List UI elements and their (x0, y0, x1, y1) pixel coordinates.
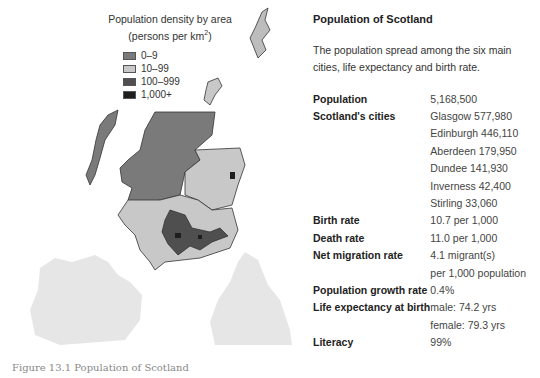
table-row: Net migration rate4.1 migrant(s) (313, 247, 526, 264)
table-row: Population growth rate0.4% (313, 281, 526, 298)
figure-caption: Figure 13.1 Population of Scotland (12, 362, 189, 373)
legend-swatch (123, 78, 136, 86)
table-row: Death rate11.0 per 1,000 (313, 229, 526, 246)
orkney-islands (204, 78, 222, 105)
legend-label: 100–999 (141, 76, 180, 87)
map-title-line1: Population density by area (100, 12, 240, 26)
region-glasgow-city (175, 233, 181, 238)
region-western-isles (86, 110, 118, 185)
table-row: female: 79.3 yrs (313, 316, 526, 333)
ireland-landmass (30, 255, 142, 345)
legend-label: 0–9 (141, 50, 158, 61)
legend-item-1000-plus: 1,000+ (123, 88, 180, 101)
table-row: Aberdeen 179,950 (313, 142, 526, 159)
shetland-islands (250, 8, 270, 58)
table-row: Life expectancy at birthmale: 74.2 yrs (313, 299, 526, 316)
map-legend: 0–9 10–99 100–999 1,000+ (123, 49, 180, 101)
panel-description: The population spread among the six main… (313, 42, 538, 76)
england-landmass (210, 252, 292, 345)
table-row: Population5,168,500 (313, 90, 526, 107)
legend-item-100-999: 100–999 (123, 75, 180, 88)
table-row: Literacy99% (313, 333, 526, 350)
table-row: Birth rate10.7 per 1,000 (313, 212, 526, 229)
map-title: Population density by area (persons per … (100, 12, 240, 43)
stats-table: Population5,168,500 Scotland's citiesGla… (313, 90, 526, 351)
legend-swatch (123, 65, 136, 73)
region-aberdeen-city (230, 172, 235, 179)
map-title-line2: (persons per km2) (100, 26, 240, 43)
table-row: per 1,000 population (313, 264, 526, 281)
legend-item-0-9: 0–9 (123, 49, 180, 62)
legend-label: 10–99 (141, 63, 169, 74)
legend-item-10-99: 10–99 (123, 62, 180, 75)
panel-title: Population of Scotland (313, 13, 538, 25)
table-row: Dundee 141,930 (313, 160, 526, 177)
table-row: Inverness 42,400 (313, 177, 526, 194)
legend-swatch (123, 52, 136, 60)
table-row: Edinburgh 446,110 (313, 125, 526, 142)
region-edinburgh-city (198, 235, 202, 239)
table-row: Scotland's citiesGlasgow 577,980 (313, 107, 526, 124)
legend-swatch (123, 91, 136, 99)
table-row: Stirling 33,060 (313, 194, 526, 211)
stats-panel: Population of Scotland The population sp… (313, 13, 538, 351)
legend-label: 1,000+ (141, 89, 172, 100)
